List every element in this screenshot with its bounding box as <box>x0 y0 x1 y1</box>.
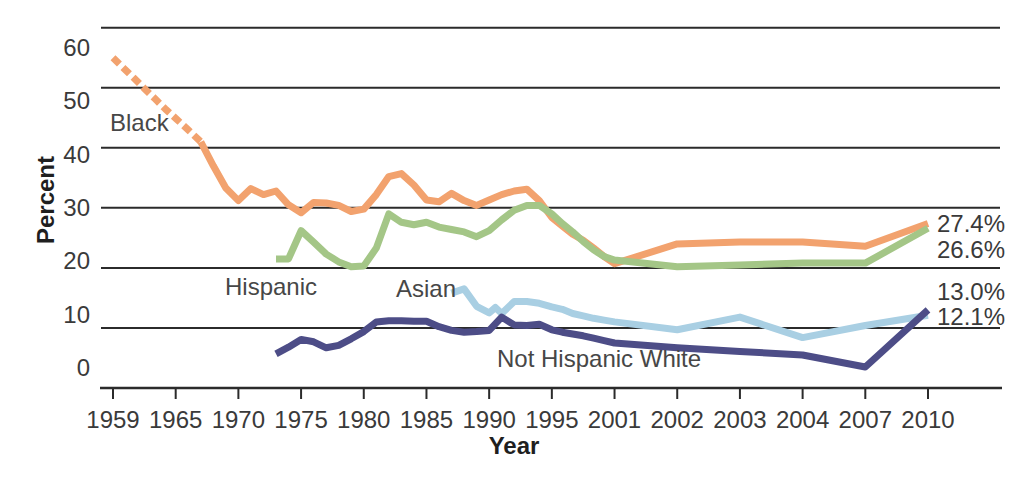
series-line-black-dashed <box>113 58 201 142</box>
plot-area <box>0 0 1035 479</box>
series-line-black <box>201 142 928 264</box>
series-line-hispanic <box>276 205 928 266</box>
series-line-asian <box>452 289 929 338</box>
poverty-rate-line-chart: Percent Year 605040302010019591965197019… <box>0 0 1035 479</box>
